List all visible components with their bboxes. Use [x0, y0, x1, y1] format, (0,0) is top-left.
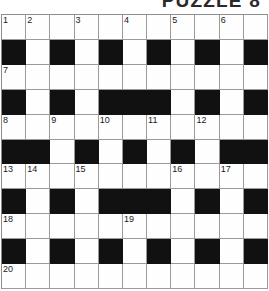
grid-letter-cell[interactable]: [147, 164, 171, 189]
grid-letter-cell[interactable]: [75, 65, 99, 90]
grid-letter-cell[interactable]: [220, 65, 244, 90]
grid-letter-cell[interactable]: [26, 65, 50, 90]
grid-letter-cell[interactable]: [220, 40, 244, 65]
crossword-grid[interactable]: 1234567891011121314151617181920: [1, 14, 268, 289]
cell-number: 13: [3, 164, 13, 174]
grid-letter-cell[interactable]: [75, 90, 99, 115]
grid-letter-cell[interactable]: 7: [2, 65, 26, 90]
grid-letter-cell[interactable]: [50, 264, 74, 289]
grid-letter-cell[interactable]: [220, 189, 244, 214]
grid-letter-cell[interactable]: [26, 115, 50, 140]
grid-letter-cell[interactable]: [244, 264, 268, 289]
grid-letter-cell[interactable]: [75, 40, 99, 65]
grid-letter-cell[interactable]: [75, 264, 99, 289]
grid-letter-cell[interactable]: 3: [75, 15, 99, 40]
grid-letter-cell[interactable]: [50, 15, 74, 40]
grid-letter-cell[interactable]: [50, 65, 74, 90]
grid-letter-cell[interactable]: [195, 140, 219, 165]
grid-letter-cell[interactable]: [171, 115, 195, 140]
grid-letter-cell[interactable]: 14: [26, 164, 50, 189]
grid-block-cell: [244, 140, 268, 165]
grid-letter-cell[interactable]: [75, 239, 99, 264]
grid-letter-cell[interactable]: 5: [171, 15, 195, 40]
grid-letter-cell[interactable]: [99, 214, 123, 239]
grid-letter-cell[interactable]: 6: [220, 15, 244, 40]
grid-letter-cell[interactable]: [75, 214, 99, 239]
crossword-puzzle-page: PUZZLE 8 1234567891011121314151617181920: [0, 0, 269, 291]
grid-letter-cell[interactable]: [99, 264, 123, 289]
grid-letter-cell[interactable]: 8: [2, 115, 26, 140]
grid-letter-cell[interactable]: [99, 164, 123, 189]
grid-block-cell: [195, 189, 219, 214]
grid-letter-cell[interactable]: [147, 65, 171, 90]
grid-letter-cell[interactable]: 19: [123, 214, 147, 239]
grid-block-cell: [147, 40, 171, 65]
grid-letter-cell[interactable]: [26, 90, 50, 115]
grid-letter-cell[interactable]: [26, 214, 50, 239]
grid-letter-cell[interactable]: [171, 40, 195, 65]
grid-letter-cell[interactable]: [147, 264, 171, 289]
grid-letter-cell[interactable]: [123, 65, 147, 90]
grid-letter-cell[interactable]: [195, 164, 219, 189]
grid-letter-cell[interactable]: [50, 140, 74, 165]
grid-letter-cell[interactable]: [50, 214, 74, 239]
grid-letter-cell[interactable]: [123, 239, 147, 264]
grid-letter-cell[interactable]: 15: [75, 164, 99, 189]
grid-letter-cell[interactable]: [26, 239, 50, 264]
grid-letter-cell[interactable]: 2: [26, 15, 50, 40]
cell-number: 6: [221, 15, 226, 25]
grid-letter-cell[interactable]: [171, 65, 195, 90]
grid-letter-cell[interactable]: [220, 239, 244, 264]
grid-letter-cell[interactable]: [195, 214, 219, 239]
grid-letter-cell[interactable]: [26, 189, 50, 214]
grid-letter-cell[interactable]: 13: [2, 164, 26, 189]
grid-letter-cell[interactable]: [26, 264, 50, 289]
grid-letter-cell[interactable]: [244, 164, 268, 189]
grid-letter-cell[interactable]: [75, 189, 99, 214]
grid-letter-cell[interactable]: [220, 115, 244, 140]
grid-letter-cell[interactable]: 20: [2, 264, 26, 289]
grid-block-cell: [2, 239, 26, 264]
grid-letter-cell[interactable]: 12: [195, 115, 219, 140]
grid-letter-cell[interactable]: [244, 65, 268, 90]
grid-letter-cell[interactable]: [195, 264, 219, 289]
grid-letter-cell[interactable]: [195, 15, 219, 40]
grid-letter-cell[interactable]: 1: [2, 15, 26, 40]
grid-letter-cell[interactable]: 10: [99, 115, 123, 140]
cell-number: 2: [27, 15, 32, 25]
grid-letter-cell[interactable]: [123, 164, 147, 189]
grid-letter-cell[interactable]: [171, 189, 195, 214]
grid-letter-cell[interactable]: [50, 164, 74, 189]
grid-block-cell: [2, 189, 26, 214]
grid-letter-cell[interactable]: [244, 15, 268, 40]
grid-letter-cell[interactable]: [75, 115, 99, 140]
grid-letter-cell[interactable]: [220, 90, 244, 115]
grid-letter-cell[interactable]: [171, 90, 195, 115]
grid-letter-cell[interactable]: [99, 140, 123, 165]
grid-letter-cell[interactable]: 16: [171, 164, 195, 189]
grid-letter-cell[interactable]: [195, 65, 219, 90]
grid-letter-cell[interactable]: [244, 115, 268, 140]
grid-letter-cell[interactable]: [244, 214, 268, 239]
grid-letter-cell[interactable]: 11: [147, 115, 171, 140]
grid-letter-cell[interactable]: [171, 264, 195, 289]
grid-letter-cell[interactable]: [147, 214, 171, 239]
grid-letter-cell[interactable]: [220, 214, 244, 239]
grid-letter-cell[interactable]: [147, 140, 171, 165]
grid-letter-cell[interactable]: 4: [123, 15, 147, 40]
grid-letter-cell[interactable]: [147, 15, 171, 40]
grid-letter-cell[interactable]: 17: [220, 164, 244, 189]
grid-letter-cell[interactable]: [26, 40, 50, 65]
grid-letter-cell[interactable]: [220, 264, 244, 289]
grid-letter-cell[interactable]: [171, 239, 195, 264]
grid-letter-cell[interactable]: [123, 40, 147, 65]
grid-letter-cell[interactable]: [123, 115, 147, 140]
grid-letter-cell[interactable]: [99, 65, 123, 90]
grid-letter-cell[interactable]: [99, 15, 123, 40]
cell-number: 3: [76, 15, 81, 25]
grid-block-cell: [147, 90, 171, 115]
grid-letter-cell[interactable]: 9: [50, 115, 74, 140]
grid-letter-cell[interactable]: [123, 264, 147, 289]
grid-letter-cell[interactable]: 18: [2, 214, 26, 239]
grid-letter-cell[interactable]: [171, 214, 195, 239]
